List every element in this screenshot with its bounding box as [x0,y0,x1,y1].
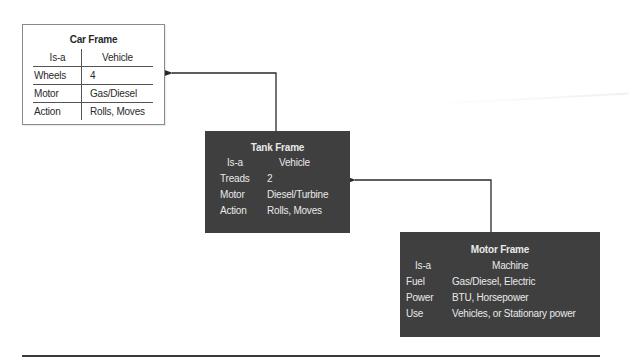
slot-label: Is-a [205,155,263,171]
slot-row: Action Rolls, Moves [205,203,350,219]
slot-value: Rolls, Moves [263,203,322,219]
is-a-row: Is-a Vehicle [205,155,350,171]
slot-row: Treads 2 [205,171,350,187]
bottom-rule-divider [22,355,600,357]
slot-table: Is-a Vehicle Wheels 4 Motor Gas/Diesel A… [33,49,153,120]
slot-label: Action [33,103,82,120]
slot-value: Vehicle [82,49,153,66]
slot-row: Wheels 4 [33,66,153,84]
frame-title: Car Frame [23,34,164,45]
slot-label: Use [400,306,452,322]
slot-row: Fuel Gas/Diesel, Electric [400,274,600,290]
motor-frame: Motor Frame Is-a Machine Fuel Gas/Diesel… [400,232,600,337]
slot-label: Fuel [400,274,452,290]
slot-label: Is-a [400,258,452,274]
slot-row: Use Vehicles, or Stationary power [400,306,600,322]
slot-value: Vehicle [263,155,310,171]
is-a-row: Is-a Machine [400,258,600,274]
slot-row: Motor Diesel/Turbine [205,187,350,203]
frame-title: Motor Frame [400,244,600,255]
car-frame: Car Frame Is-a Vehicle Wheels 4 Motor Ga… [22,24,165,125]
slot-label: Motor [205,187,263,203]
slot-row: Action Rolls, Moves [33,102,153,120]
slot-value: 2 [263,171,272,187]
frame-title: Tank Frame [205,142,350,153]
slot-label: Motor [33,85,82,102]
slot-label: Treads [205,171,263,187]
slot-value: Gas/Diesel, Electric [452,274,535,290]
slot-row: Power BTU, Horsepower [400,290,600,306]
slot-value: Vehicles, or Stationary power [452,306,576,322]
slot-label: Is-a [33,49,82,66]
arrow-tank-to-car [172,73,276,131]
slot-value: Diesel/Turbine [263,187,328,203]
tank-frame: Tank Frame Is-a Vehicle Treads 2 Motor D… [205,131,350,233]
slot-value: Gas/Diesel [82,85,137,102]
slot-label: Action [205,203,263,219]
is-a-row: Is-a Vehicle [33,49,153,66]
slot-value: BTU, Horsepower [452,290,528,306]
slot-row: Motor Gas/Diesel [33,84,153,102]
slot-value: Rolls, Moves [82,103,145,120]
slot-value: Machine [452,258,528,274]
arrow-motor-to-tank [355,180,491,232]
slot-value: 4 [82,67,95,84]
slot-label: Wheels [33,67,82,84]
slot-label: Power [400,290,452,306]
